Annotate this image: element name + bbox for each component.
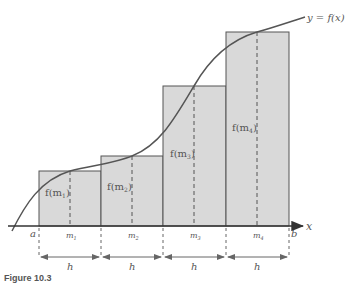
svg-text:h: h <box>129 261 135 272</box>
endpoint-a: a <box>30 228 36 239</box>
svg-text:m3: m3 <box>190 231 201 241</box>
svg-text:m4: m4 <box>253 231 264 241</box>
svg-text:m2: m2 <box>128 231 139 241</box>
endpoint-b: b <box>291 228 297 239</box>
x-axis-label: x <box>306 220 313 233</box>
midpoint-labels: m1 m2 m3 m4 <box>66 231 264 241</box>
curve-label: y = f(x) <box>306 12 345 23</box>
svg-text:f(m2): f(m2) <box>107 181 132 193</box>
svg-text:h: h <box>254 261 260 272</box>
svg-text:h: h <box>191 261 197 272</box>
svg-text:f(m1): f(m1) <box>45 187 70 199</box>
partition-ticks <box>39 228 289 258</box>
svg-text:m1: m1 <box>66 231 77 241</box>
figure-caption: Figure 10.3 <box>4 273 52 283</box>
svg-text:f(m3): f(m3) <box>170 148 195 160</box>
width-labels: h h h h <box>67 261 260 272</box>
svg-text:h: h <box>67 261 73 272</box>
svg-text:f(m4): f(m4) <box>232 122 257 134</box>
